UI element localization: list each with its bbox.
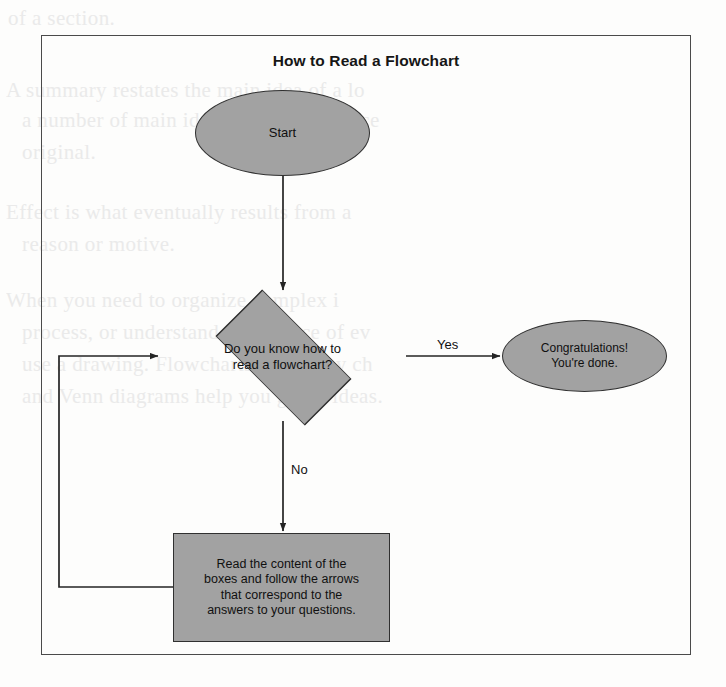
node-decision-line-1: Do you know how to xyxy=(224,341,341,356)
node-read-instructions-label: Read the content of the boxes and follow… xyxy=(204,557,359,619)
node-congratulations-label: Congratulations! You're done. xyxy=(541,341,628,371)
node-decision[interactable]: Do you know how to read a flowchart? xyxy=(160,292,405,421)
node-congratulations[interactable]: Congratulations! You're done. xyxy=(502,320,667,392)
node-read-line-2: boxes and follow the arrows xyxy=(204,572,359,586)
node-decision-label: Do you know how to read a flowchart? xyxy=(224,341,341,372)
node-start-label: Start xyxy=(269,125,296,141)
edge-label-yes: Yes xyxy=(437,337,458,352)
node-read-line-1: Read the content of the xyxy=(217,557,347,571)
node-congratulations-line-2: You're done. xyxy=(551,356,618,370)
node-read-line-4: answers to your questions. xyxy=(207,603,356,617)
node-read-instructions[interactable]: Read the content of the boxes and follow… xyxy=(173,533,390,642)
node-start[interactable]: Start xyxy=(195,90,370,176)
node-congratulations-line-1: Congratulations! xyxy=(541,341,628,355)
edge-label-no: No xyxy=(291,462,308,477)
edge-read-loop-back xyxy=(59,356,173,587)
node-decision-line-2: read a flowchart? xyxy=(233,357,333,372)
figure-title: How to Read a Flowchart xyxy=(41,52,691,70)
node-read-line-3: that correspond to the xyxy=(221,588,343,602)
